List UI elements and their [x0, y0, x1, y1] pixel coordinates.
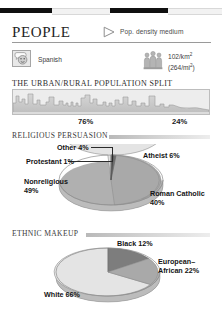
urban-rural-values: 76% 24% [12, 117, 210, 127]
ethnic-section-header: ETHNIC MAKEUP [12, 229, 210, 239]
religion-rule [109, 135, 210, 139]
speech-face-icon [12, 50, 31, 71]
language-label: Spanish [38, 56, 62, 63]
urban-rural-chart [12, 89, 210, 115]
header-rule [12, 42, 211, 43]
ethnic-rule [86, 233, 210, 237]
label-roman-catholic: Roman Catholic 40% [150, 190, 212, 207]
label-other: Other 4% [57, 144, 89, 153]
label-black: Black 12% [117, 240, 153, 249]
leader-line-protestant [68, 161, 113, 162]
density-imperial: (264/mi [168, 64, 190, 71]
urban-rural-title: THE URBAN/RURAL POPULATION SPLIT [12, 79, 172, 88]
top-segment-3 [110, 8, 168, 13]
density-metric: 102/km [168, 53, 190, 60]
density-imperial-close: ) [193, 64, 195, 71]
religion-title: RELIGIOUS PERSUASION [12, 131, 108, 140]
leader-line-other-drop [112, 147, 113, 156]
urban-percent: 76% [78, 117, 93, 126]
label-atheist: Atheist 6% [143, 152, 180, 161]
top-segment-bar [0, 8, 222, 13]
ethnic-title: ETHNIC MAKEUP [12, 229, 78, 238]
religion-section-header: RELIGIOUS PERSUASION [12, 131, 210, 141]
top-segment-4 [168, 8, 222, 15]
leader-line-other [91, 147, 113, 148]
facts-row: Spanish 102/km2 (264/mi2) [12, 50, 212, 74]
rural-percent: 24% [172, 117, 187, 126]
infographic-page: PEOPLE Pop. density medium Spanish [0, 0, 222, 311]
label-nonreligious: Nonreligious 49% [24, 178, 80, 195]
label-protestant: Protestant 1% [26, 158, 74, 167]
label-white: White 66% [44, 291, 80, 300]
density-values: 102/km2 (264/mi2) [168, 51, 195, 72]
density-metric-exponent: 2 [190, 52, 193, 57]
top-segment-2 [52, 8, 110, 15]
label-european-african: European–African 22% [158, 258, 214, 275]
leader-line-protestant-drop [112, 156, 113, 162]
people-header: PEOPLE Pop. density medium [12, 24, 212, 44]
top-segment-1 [0, 8, 52, 13]
page-title: PEOPLE [12, 24, 71, 40]
crowd-icon [143, 50, 163, 74]
density-note: Pop. density medium [120, 28, 183, 35]
